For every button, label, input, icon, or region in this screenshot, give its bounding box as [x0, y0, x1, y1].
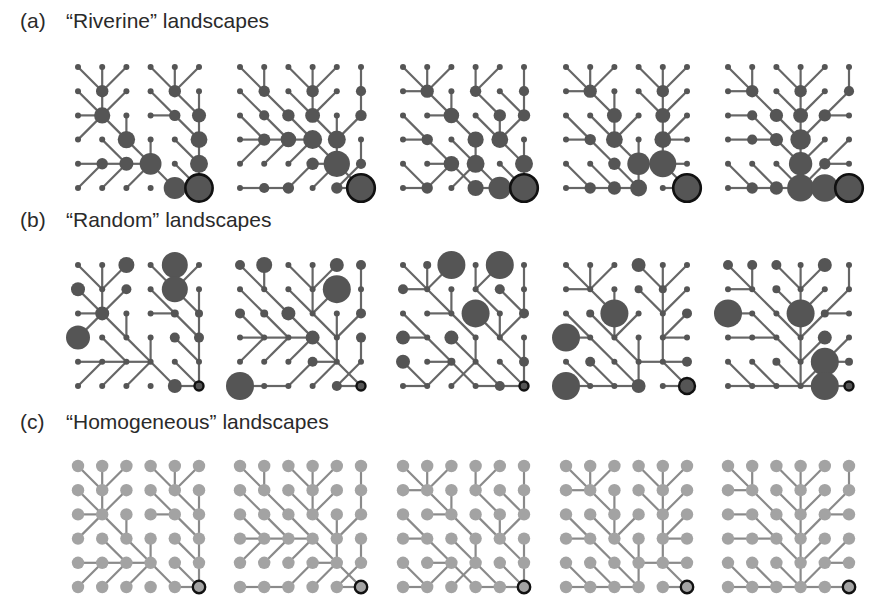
network-panel — [75, 64, 213, 202]
habitat-node — [234, 484, 246, 496]
habitat-node — [237, 185, 243, 191]
habitat-node — [96, 508, 108, 520]
habitat-node — [226, 372, 254, 400]
habitat-node — [306, 331, 320, 345]
habitat-node — [636, 335, 642, 341]
habitat-node — [722, 484, 734, 496]
habitat-node — [424, 64, 430, 70]
habitat-node — [725, 64, 731, 70]
habitat-node — [120, 581, 132, 593]
habitat-node — [72, 557, 84, 569]
habitat-node — [657, 532, 669, 544]
habitat-node — [331, 182, 342, 193]
habitat-node — [237, 335, 243, 341]
habitat-node — [148, 335, 154, 341]
habitat-node — [306, 85, 318, 97]
habitat-node — [144, 460, 156, 472]
habitat-node — [681, 460, 693, 472]
habitat-node — [397, 460, 409, 472]
habitat-node — [584, 484, 596, 496]
habitat-node — [71, 282, 85, 296]
habitat-node — [821, 309, 829, 317]
habitat-node — [467, 155, 485, 173]
habitat-node — [632, 532, 644, 544]
habitat-node — [162, 252, 188, 278]
habitat-node — [586, 309, 594, 317]
habitat-node — [400, 185, 406, 191]
habitat-node — [330, 258, 344, 272]
habitat-node — [770, 532, 782, 544]
habitat-node — [355, 508, 367, 520]
habitat-node — [285, 262, 291, 268]
outlet-node — [843, 581, 855, 593]
outlet-node — [679, 378, 695, 394]
habitat-node — [798, 383, 804, 389]
habitat-node — [332, 381, 342, 391]
habitat-node — [725, 185, 731, 191]
outlet-node — [673, 174, 701, 202]
habitat-node — [331, 532, 343, 544]
habitat-node — [324, 151, 350, 177]
outlet-node — [845, 382, 854, 391]
habitat-node — [725, 137, 731, 143]
habitat-node — [822, 64, 828, 70]
habitat-node — [660, 310, 666, 316]
habitat-node — [196, 64, 202, 70]
habitat-node — [120, 532, 132, 544]
habitat-node — [193, 532, 205, 544]
habitat-node — [306, 460, 318, 472]
habitat-node — [518, 460, 530, 472]
habitat-node — [355, 110, 366, 121]
habitat-node — [193, 460, 205, 472]
habitat-node — [497, 359, 503, 365]
habitat-node — [772, 285, 780, 293]
flow-edge — [175, 313, 199, 337]
habitat-node — [563, 185, 569, 191]
habitat-node — [657, 508, 669, 520]
habitat-node — [260, 309, 268, 317]
habitat-node — [515, 155, 533, 173]
habitat-node — [331, 460, 343, 472]
habitat-node — [518, 109, 530, 121]
outlet-node — [681, 581, 693, 593]
habitat-node — [193, 557, 205, 569]
habitat-node — [400, 383, 406, 389]
habitat-node — [445, 581, 457, 593]
habitat-node — [584, 532, 596, 544]
habitat-node — [123, 383, 129, 389]
habitat-node — [421, 532, 433, 544]
habitat-node — [169, 110, 180, 121]
habitat-node — [587, 335, 593, 341]
habitat-node — [168, 379, 182, 393]
habitat-node — [123, 112, 129, 118]
habitat-node — [331, 508, 343, 520]
habitat-node — [421, 557, 433, 569]
habitat-node — [334, 88, 340, 94]
habitat-node — [560, 532, 572, 544]
habitat-node — [563, 359, 569, 365]
habitat-node — [400, 64, 406, 70]
habitat-node — [722, 532, 734, 544]
habitat-node — [282, 581, 294, 593]
habitat-node — [331, 581, 343, 593]
habitat-node — [660, 335, 666, 341]
habitat-node — [331, 484, 343, 496]
habitat-node — [632, 258, 646, 272]
habitat-node — [563, 286, 569, 292]
flow-edge — [776, 265, 800, 289]
habitat-node — [172, 161, 178, 167]
habitat-node — [819, 158, 830, 169]
habitat-node — [521, 286, 527, 292]
habitat-node — [285, 359, 291, 365]
habitat-node — [722, 581, 734, 593]
habitat-node — [811, 348, 839, 376]
habitat-node — [259, 110, 269, 120]
habitat-node — [323, 275, 351, 303]
flow-edge — [126, 338, 150, 362]
habitat-node — [660, 359, 666, 365]
network-panel — [722, 460, 855, 593]
network-panel — [396, 251, 529, 391]
outlet-node — [520, 382, 529, 391]
habitat-node — [123, 310, 129, 316]
habitat-node — [587, 64, 593, 70]
